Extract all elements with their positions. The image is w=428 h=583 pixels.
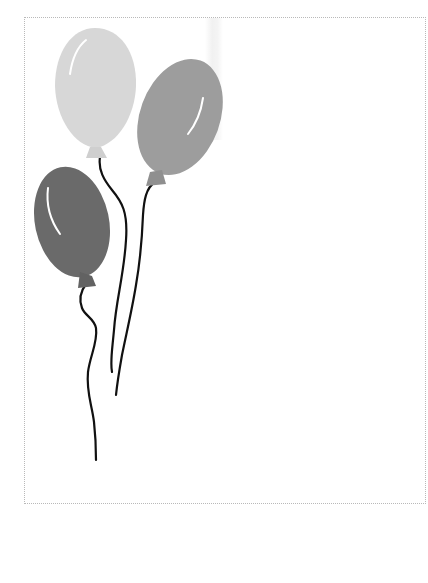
dark-balloon-string [80, 284, 96, 460]
mid-balloon [122, 47, 238, 187]
light-balloon [55, 28, 136, 158]
mid-balloon-string [116, 182, 155, 395]
balloons-illustration [0, 0, 428, 583]
stationery-page [0, 0, 428, 583]
light-balloon-string [100, 157, 127, 372]
